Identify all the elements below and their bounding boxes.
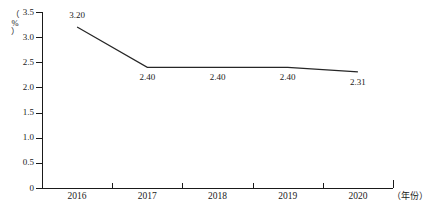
y-axis-tick <box>36 37 42 38</box>
y-axis-tick-label: 1.5 <box>0 108 34 117</box>
y-axis-line <box>42 12 43 189</box>
x-axis-tick-label: 2017 <box>117 192 177 202</box>
x-axis-tick <box>393 180 394 188</box>
x-axis-title: （年份） <box>392 192 428 201</box>
data-point-label: 2.40 <box>195 73 241 82</box>
y-axis-tick-label: 1.0 <box>0 133 34 142</box>
y-axis-tick-label: 0 <box>0 184 34 193</box>
x-axis-tick <box>253 183 254 188</box>
data-point-label: 3.20 <box>54 11 100 20</box>
x-axis-line <box>42 188 393 189</box>
x-axis-tick-label: 2016 <box>47 192 107 202</box>
x-axis-tick-label: 2018 <box>188 192 248 202</box>
y-axis-tick <box>36 188 42 189</box>
y-axis-tick <box>36 62 42 63</box>
x-axis-tick-label: 2020 <box>328 192 388 202</box>
y-axis-tick-label: 2.0 <box>0 83 34 92</box>
x-axis-tick <box>182 183 183 188</box>
y-axis-tick-label: 2.5 <box>0 58 34 67</box>
y-axis-tick <box>36 87 42 88</box>
line-chart-figure: （ % ） 00.51.01.52.02.53.03.5 20162017201… <box>0 0 436 220</box>
data-point-label: 2.31 <box>335 78 381 87</box>
plot-area <box>0 0 436 220</box>
data-series-line <box>77 27 358 72</box>
y-axis-tick-label: 0.5 <box>0 158 34 167</box>
y-axis-tick-label: 3.0 <box>0 33 34 42</box>
y-axis-tick <box>36 113 42 114</box>
y-axis-tick <box>36 163 42 164</box>
data-point-label: 2.40 <box>124 73 170 82</box>
y-axis-tick-label: 3.5 <box>0 8 34 17</box>
y-axis-tick <box>36 138 42 139</box>
x-axis-tick <box>323 183 324 188</box>
x-axis-tick-label: 2019 <box>258 192 318 202</box>
data-point-label: 2.40 <box>265 73 311 82</box>
y-axis-tick <box>36 12 42 13</box>
x-axis-tick <box>112 183 113 188</box>
